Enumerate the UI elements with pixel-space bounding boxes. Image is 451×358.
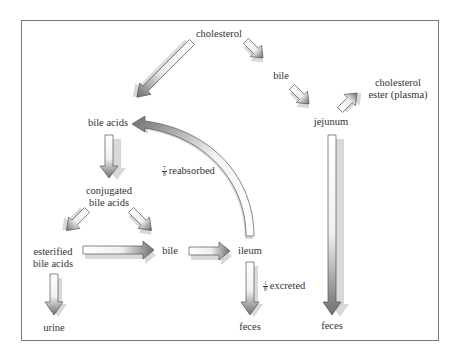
esterified-line1: esterified (33, 246, 73, 258)
node-jejunum: jejunum (314, 116, 348, 128)
node-cholesterol: cholesterol (196, 28, 242, 40)
arrow-ileum-to-bile-acids-curved (132, 116, 254, 239)
cholesterol-ester-line2: ester (plasma) (368, 89, 427, 101)
arrow-layer (0, 0, 451, 358)
node-ileum: ileum (238, 245, 262, 257)
arrow-bile-to-ileum (189, 242, 232, 265)
node-feces-ileum: feces (239, 321, 261, 333)
arrow-jejunum-to-cholesterol-ester (334, 85, 367, 118)
arrow-bile-to-jejunum (284, 81, 317, 114)
arrow-conjugated-to-bile (123, 204, 159, 240)
node-bile-top: bile (273, 70, 289, 82)
node-cholesterol-ester: cholesterol ester (plasma) (368, 77, 427, 101)
arrow-bile-acids-to-conjugated (100, 135, 126, 180)
node-bile-mid: bile (162, 245, 178, 257)
cholesterol-ester-line1: cholesterol (368, 77, 427, 89)
node-conjugated-bile-acids: conjugated bile acids (86, 185, 132, 209)
arrow-esterified-to-bile (83, 241, 156, 264)
fraction-1-8: 1 8 (263, 281, 268, 292)
node-feces-jejunum: feces (321, 320, 343, 332)
conjugated-line2: bile acids (86, 197, 132, 209)
arrow-jejunum-to-feces (323, 135, 349, 317)
node-esterified-bile-acids: esterified bile acids (33, 246, 73, 270)
annotation-reabsorbed: 7 8 reabsorbed (162, 165, 215, 177)
conjugated-line1: conjugated (86, 185, 132, 197)
arrow-cholesterol-to-bile-acids (127, 34, 198, 105)
arrow-ileum-to-feces (241, 262, 263, 317)
node-bile-acids: bile acids (88, 117, 128, 129)
esterified-line2: bile acids (33, 258, 73, 270)
arrow-esterified-to-urine (45, 274, 67, 317)
fraction-7-8: 7 8 (162, 166, 167, 177)
annotation-excreted: 1 8 excreted (263, 280, 305, 292)
arrow-cholesterol-to-bile (238, 35, 271, 68)
node-urine: urine (43, 322, 65, 334)
